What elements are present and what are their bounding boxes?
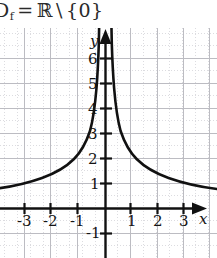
x-tick-label--1: -1 (70, 214, 85, 229)
y-tick-label-5: 5 (88, 77, 98, 92)
x-tick-label--2: -2 (43, 214, 58, 229)
y-tick-label-1: 1 (90, 177, 100, 192)
x-tick-label--3: -3 (17, 214, 32, 229)
x-axis-label: x (199, 212, 207, 227)
x-tick-label-3: 3 (179, 214, 189, 229)
x-tick-label-2: 2 (153, 214, 163, 229)
x-tick-label-1: 1 (127, 214, 137, 229)
y-tick-label-2: 2 (88, 152, 98, 167)
y-axis (100, 29, 112, 258)
y-tick-label--1: -1 (86, 226, 101, 241)
y-tick-label-3: 3 (88, 127, 98, 142)
setminus-sign: \ (53, 0, 66, 21)
equals-sign: = (14, 0, 36, 21)
reals-symbol: ℝ (37, 0, 53, 21)
y-tick-label-4: 4 (88, 102, 98, 117)
y-tick-label-6: 6 (88, 52, 98, 67)
domain-formula: Df=ℝ\{0} (0, 0, 154, 23)
domain-symbol: D (0, 0, 10, 21)
y-axis-arrow (100, 29, 112, 44)
excluded-set: {0} (66, 0, 104, 21)
coordinate-plot: -3 -2 -1 1 2 3 -1 1 2 3 4 5 6 y x (0, 28, 217, 258)
y-axis-label: y (90, 34, 98, 49)
figure-root: Df=ℝ\{0} (0, 0, 217, 258)
